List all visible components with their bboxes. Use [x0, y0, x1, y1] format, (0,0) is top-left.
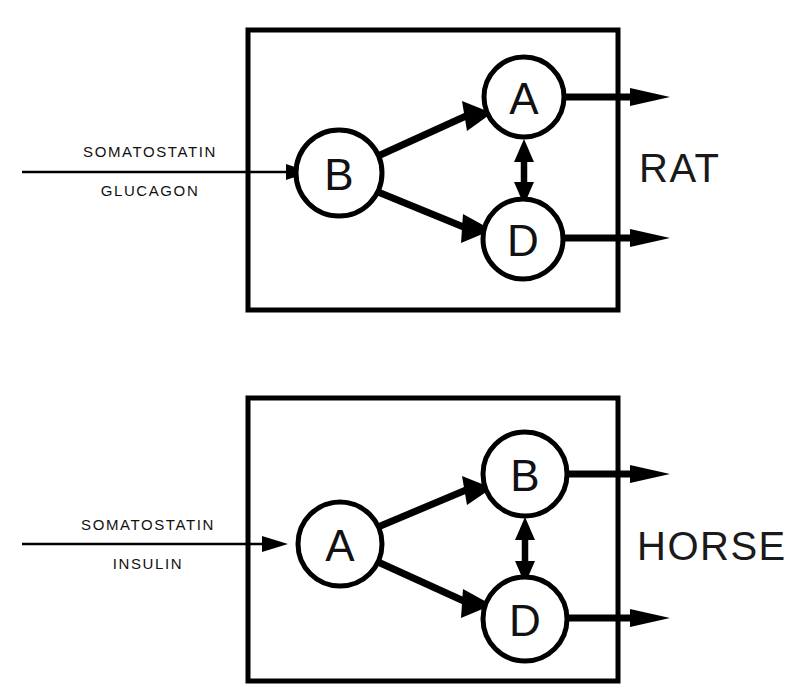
diagram-canvas: SOMATOSTATIN GLUCAGON: [0, 0, 798, 697]
horse-node-lower[interactable]: D: [483, 577, 567, 661]
rat-edge-upper-lower-bidirectional: [514, 139, 534, 205]
rat-input-label-bottom: GLUCAGON: [101, 182, 200, 199]
rat-panel: SOMATOSTATIN GLUCAGON: [22, 30, 721, 310]
diagram-svg: SOMATOSTATIN GLUCAGON: [0, 0, 798, 697]
horse-node-upper[interactable]: B: [483, 432, 567, 516]
rat-node-source[interactable]: B: [296, 130, 382, 216]
horse-node-upper-label: B: [510, 451, 539, 500]
horse-input-label-top: SOMATOSTATIN: [81, 516, 215, 533]
horse-edge-source-to-upper: [378, 476, 492, 527]
horse-edge-upper-lower-bidirectional: [515, 517, 535, 584]
rat-edge-source-to-lower: [378, 192, 492, 243]
rat-input-arrow: [22, 164, 310, 180]
horse-species-label: HORSE: [637, 524, 787, 568]
rat-node-lower-label: D: [507, 216, 539, 265]
rat-species-label: RAT: [639, 146, 721, 190]
rat-node-upper[interactable]: A: [484, 57, 564, 137]
rat-node-source-label: B: [324, 150, 353, 199]
rat-edge-source-to-upper: [378, 101, 492, 156]
horse-node-source[interactable]: A: [298, 502, 382, 586]
rat-output-arrow-lower: [560, 229, 670, 247]
horse-panel: SOMATOSTATIN INSULIN: [22, 398, 787, 681]
rat-input-label-top: SOMATOSTATIN: [83, 143, 217, 160]
rat-node-upper-label: A: [509, 74, 539, 123]
horse-node-lower-label: D: [509, 596, 541, 645]
rat-node-lower[interactable]: D: [483, 199, 563, 279]
horse-input-label-bottom: INSULIN: [113, 555, 183, 572]
horse-edge-source-to-lower: [378, 562, 492, 618]
horse-node-source-label: A: [325, 521, 355, 570]
